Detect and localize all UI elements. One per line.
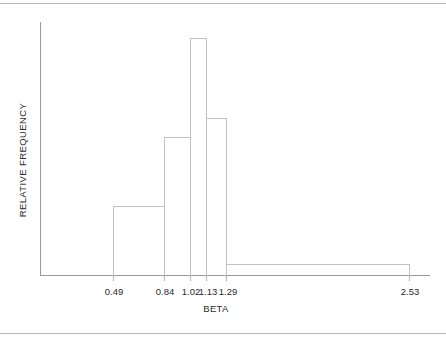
histogram-bar: [191, 39, 207, 276]
histogram-bar: [165, 138, 191, 276]
x-tick-label-4: 1.29: [219, 286, 238, 297]
x-tick-label-3: 1.13: [199, 286, 218, 297]
x-axis-title: BETA: [203, 303, 229, 314]
histogram-bars: [114, 39, 410, 276]
x-tick-label-0: 0.49: [105, 286, 124, 297]
histogram-bar: [227, 265, 410, 276]
x-tick-label-5: 2.53: [401, 286, 420, 297]
chart-plot-area: 0.49 0.84 1.02 1.13 1.29 2.53 BETA RELAT…: [0, 0, 446, 341]
x-tick-label-1: 0.84: [156, 286, 175, 297]
x-tick-label-2: 1.02: [182, 286, 201, 297]
histogram-bar: [207, 119, 227, 276]
x-axis-ticks: [114, 276, 410, 281]
y-axis-title: RELATIVE FREQUENCY: [17, 102, 28, 217]
histogram-figure: 0.49 0.84 1.02 1.13 1.29 2.53 BETA RELAT…: [0, 0, 446, 341]
x-axis-tick-labels: 0.49 0.84 1.02 1.13 1.29 2.53: [105, 286, 420, 297]
histogram-bar: [114, 207, 165, 276]
